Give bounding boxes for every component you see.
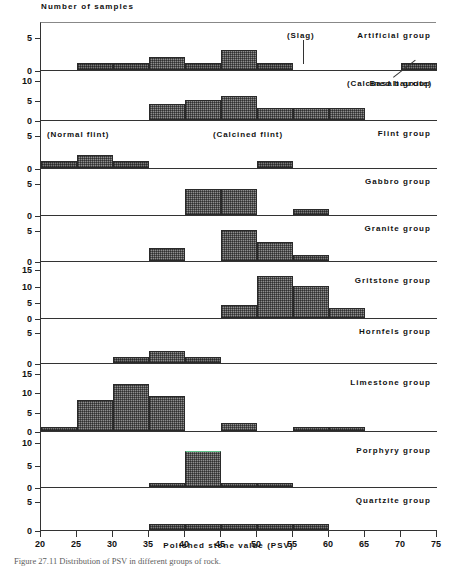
y-tick-label: 5: [27, 179, 32, 189]
plot-area: [41, 169, 437, 215]
x-tick: [328, 530, 329, 537]
x-tick: [184, 530, 185, 537]
panel-label: Quartzite group: [356, 496, 431, 505]
bar: [149, 396, 185, 431]
panel-hornfels-group: 05Hornfels group: [41, 319, 437, 364]
chart-figure: Number of samples 05Artificial group0510…: [0, 0, 457, 566]
panel-granite-group: 05Granite group: [41, 216, 437, 262]
x-tick: [256, 530, 257, 537]
bar: [257, 483, 293, 488]
bar: [329, 427, 365, 431]
bar: [113, 384, 149, 431]
y-tick: [35, 333, 41, 334]
y-tick-label: 5: [27, 497, 32, 507]
panel-quartzite-group: 05Quartzite group: [41, 488, 437, 531]
y-tick: [35, 393, 41, 394]
y-tick: [35, 38, 41, 39]
y-tick: [35, 81, 41, 82]
bar: [185, 189, 221, 215]
y-tick: [35, 466, 41, 467]
x-tick: [220, 530, 221, 537]
y-tick-label: 5: [27, 226, 32, 236]
panel-gritstone-group: 051015Gritstone group: [41, 262, 437, 319]
bar: [221, 423, 257, 431]
bar: [113, 357, 149, 363]
bar: [221, 96, 257, 120]
bar: [221, 305, 257, 318]
panel-flint-group: 05Flint group: [41, 121, 437, 169]
bar: [149, 351, 185, 363]
y-tick: [35, 231, 41, 232]
bar: [185, 451, 221, 487]
figure-caption: Figure 27.11 Distribution of PSV in diff…: [14, 556, 444, 566]
bar: [221, 230, 257, 261]
bar: [113, 63, 149, 70]
bar: [185, 357, 221, 363]
panel-label: Gritstone group: [355, 276, 431, 285]
panel-label: Limestone group: [350, 378, 431, 387]
x-tick: [364, 530, 365, 537]
y-tick-label: 10: [22, 76, 32, 86]
bar: [257, 242, 293, 261]
x-tick: [112, 530, 113, 537]
panel-porphyry-group: 0510Porphyry group: [41, 432, 437, 488]
panels-container: 05Artificial group0510Basalt group05Flin…: [40, 22, 436, 530]
bar: [293, 255, 329, 261]
y-tick-label: 0: [27, 211, 32, 221]
y-tick-label: 5: [27, 328, 32, 338]
y-tick-label: 10: [22, 282, 32, 292]
leader-line: [303, 40, 304, 64]
x-axis-title: Polished stone value (PSV): [0, 541, 457, 550]
bar: [149, 57, 185, 70]
bar: [293, 108, 329, 120]
y-tick: [35, 413, 41, 414]
panel-label: Artificial group: [357, 31, 431, 40]
bar: [293, 286, 329, 318]
y-tick-label: 0: [27, 314, 32, 324]
y-tick-label: 10: [22, 388, 32, 398]
bar: [149, 104, 185, 120]
bar: [293, 427, 329, 431]
y-tick-label: 0: [27, 66, 32, 76]
bar: [257, 161, 293, 168]
bar: [41, 161, 77, 168]
y-tick: [35, 136, 41, 137]
x-tick: [76, 530, 77, 537]
bar: [257, 524, 293, 530]
bar: [257, 108, 293, 120]
y-tick: [35, 374, 41, 375]
y-tick-label: 0: [27, 483, 32, 493]
y-tick-label: 5: [27, 298, 32, 308]
annotation-calcined-bauxite: (Calcined bauxite): [347, 79, 432, 88]
y-tick-label: 0: [27, 116, 32, 126]
bar: [77, 400, 113, 431]
plot-area: [41, 262, 437, 318]
y-tick: [35, 101, 41, 102]
bar: [149, 248, 185, 261]
panel-label: Granite group: [364, 224, 431, 233]
bar: [41, 427, 77, 431]
bar: [293, 524, 329, 530]
bar: [113, 161, 149, 168]
panel-limestone-group: 051015Limestone group: [41, 364, 437, 432]
bar: [149, 483, 185, 488]
plot-area: [41, 319, 437, 363]
bar: [185, 100, 221, 120]
bar: [221, 524, 257, 530]
plot-area: [41, 488, 437, 530]
y-tick-label: 15: [22, 369, 32, 379]
annotation-slag: (Slag): [287, 31, 315, 40]
plot-area: [41, 364, 437, 431]
bar: [257, 276, 293, 318]
y-tick-label: 5: [27, 408, 32, 418]
bar: [221, 50, 257, 70]
bar: [293, 209, 329, 215]
bar: [185, 63, 221, 70]
panel-label: Flint group: [378, 129, 431, 138]
y-tick-label: 5: [27, 96, 32, 106]
x-tick: [292, 530, 293, 537]
y-tick-label: 0: [27, 164, 32, 174]
y-tick-label: 15: [22, 265, 32, 275]
bar: [77, 63, 113, 70]
y-tick: [35, 270, 41, 271]
